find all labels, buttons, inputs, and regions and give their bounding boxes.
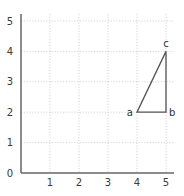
point-labels: abc: [127, 38, 176, 117]
x-tick-label: 1: [47, 177, 53, 188]
x-tick-label: 4: [134, 177, 140, 188]
grid-lines: [21, 14, 174, 173]
y-tick-label: 2: [7, 107, 13, 118]
y-tick-label: 1: [7, 137, 13, 148]
x-tick-labels: 12345: [47, 177, 169, 188]
x-tick-label: 2: [76, 177, 82, 188]
y-tick-label: 5: [7, 16, 13, 27]
y-tick-label: 4: [7, 46, 13, 57]
chart: 012345 12345 abc: [0, 0, 184, 196]
point-label-b: b: [169, 107, 175, 118]
axes: [21, 14, 174, 173]
x-tick-label: 5: [163, 177, 169, 188]
point-label-a: a: [127, 107, 133, 118]
y-tick-label: 3: [7, 76, 13, 87]
y-tick-label: 0: [7, 168, 13, 179]
y-tick-labels: 012345: [7, 16, 13, 179]
point-label-c: c: [163, 38, 169, 49]
x-tick-label: 3: [105, 177, 111, 188]
